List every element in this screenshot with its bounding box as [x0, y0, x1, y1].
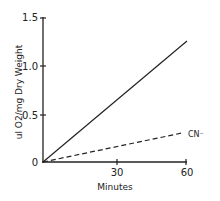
- xtick-60: 60: [181, 167, 194, 178]
- series-cn-label: CN⁻: [188, 130, 204, 139]
- x-axis-label: Minutes: [97, 182, 133, 192]
- ytick-1.5: 1.5: [22, 12, 38, 23]
- ytick-1.0: 1.0: [22, 61, 38, 72]
- y-axis-label: ul O2/mg Dry Weight: [14, 44, 24, 139]
- chart: 1.5 1.0 0.5 0 30 60 Minutes ul O2/mg Dry…: [0, 0, 220, 201]
- chart-svg: 1.5 1.0 0.5 0 30 60 Minutes ul O2/mg Dry…: [0, 0, 220, 201]
- xtick-30: 30: [111, 167, 124, 178]
- ytick-0.5: 0.5: [22, 110, 38, 121]
- series-cn-line: [43, 133, 182, 162]
- ytick-0: 0: [32, 157, 38, 168]
- series-control-line: [43, 41, 187, 162]
